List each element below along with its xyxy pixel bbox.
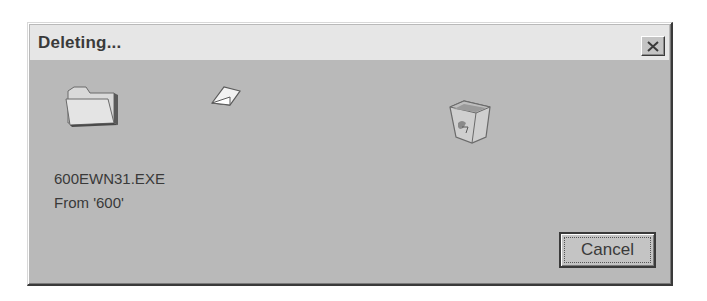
deleting-dialog: Deleting... 600EWN31.EXE From '600' Canc… [27, 22, 673, 286]
dialog-title: Deleting... [38, 33, 121, 53]
cancel-button[interactable]: Cancel [559, 232, 656, 268]
source-folder-text: From '600' [54, 194, 124, 211]
close-icon [647, 41, 659, 52]
paper-icon [208, 81, 244, 111]
title-bar[interactable]: Deleting... [30, 25, 669, 60]
folder-icon [62, 79, 122, 129]
file-name: 600EWN31.EXE [54, 170, 165, 187]
recycle-bin-icon [446, 97, 496, 145]
close-button[interactable] [641, 36, 665, 56]
cancel-button-label: Cancel [564, 237, 651, 263]
